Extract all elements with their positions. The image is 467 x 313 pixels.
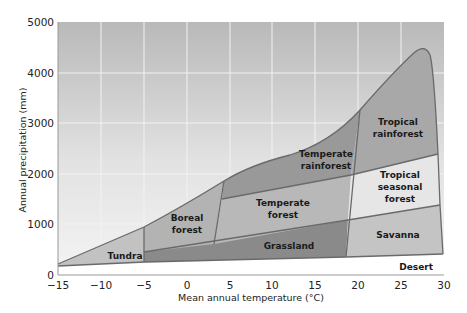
label-tropical-rainforest: Tropical	[378, 117, 418, 127]
svg-text:2000: 2000	[27, 168, 54, 180]
label-temperate-rainforest: Temperate	[299, 149, 353, 159]
y-tick-labels: 0 1000 2000 3000 4000 5000	[27, 16, 54, 281]
x-axis-label: Mean annual temperature (°C)	[178, 292, 324, 303]
svg-text:5: 5	[227, 279, 234, 291]
label-temperate-forest-2: forest	[268, 210, 299, 220]
svg-text:1000: 1000	[27, 218, 54, 230]
label-temperate-rainforest-2: rainforest	[301, 161, 352, 171]
svg-text:4000: 4000	[27, 67, 54, 79]
label-desert: Desert	[399, 262, 433, 272]
svg-text:15: 15	[308, 279, 321, 291]
svg-text:30: 30	[437, 279, 450, 291]
svg-text:10: 10	[265, 279, 278, 291]
svg-text:0: 0	[184, 279, 191, 291]
label-tropical-rainforest-2: rainforest	[373, 129, 424, 139]
label-boreal-forest: Boreal	[171, 213, 204, 223]
label-tropical-seasonal-forest-2: seasonal	[378, 182, 423, 192]
svg-text:5000: 5000	[27, 16, 54, 28]
biome-chart: Tundra Boreal forest Temperate forest Te…	[0, 0, 467, 313]
chart-svg: Tundra Boreal forest Temperate forest Te…	[0, 0, 467, 313]
y-axis-label: Annual precipitation (mm)	[17, 88, 28, 213]
label-tundra: Tundra	[108, 251, 143, 261]
label-boreal-forest-2: forest	[172, 225, 203, 235]
svg-text:−5: −5	[136, 279, 151, 291]
label-temperate-forest: Temperate	[256, 198, 310, 208]
svg-text:0: 0	[47, 269, 54, 281]
svg-text:3000: 3000	[27, 117, 54, 129]
label-tropical-seasonal-forest: Tropical	[380, 170, 420, 180]
label-tropical-seasonal-forest-3: forest	[385, 194, 416, 204]
svg-text:−10: −10	[90, 279, 112, 291]
x-tick-labels: −15 −10 −5 0 5 10 15 20 25 30	[47, 279, 451, 291]
label-savanna: Savanna	[376, 230, 419, 240]
svg-text:20: 20	[351, 279, 364, 291]
svg-text:25: 25	[394, 279, 407, 291]
label-grassland: Grassland	[264, 241, 315, 251]
